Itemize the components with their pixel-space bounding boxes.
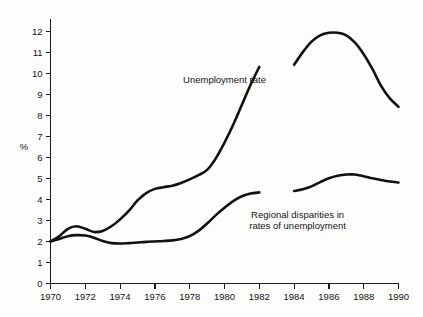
y-axis-tick-labels: 0123456789101112 xyxy=(32,26,43,289)
x-tick-label: 1972 xyxy=(75,291,96,302)
series-regional-disparities-segment-1 xyxy=(51,192,260,243)
series-unemployment-rate-segment-2 xyxy=(294,32,398,106)
y-tick-label: 3 xyxy=(37,215,42,226)
y-tick-label: 5 xyxy=(37,173,42,184)
axes-group xyxy=(51,19,399,284)
x-tick-label: 1978 xyxy=(179,291,200,302)
x-tick-label: 1984 xyxy=(284,291,305,302)
chart-container: 0123456789101112 19701972197419761978198… xyxy=(0,0,423,317)
series-unemployment-rate xyxy=(51,32,399,241)
y-tick-label: 4 xyxy=(37,194,42,205)
x-axis-tick-labels: 1970197219741976197819801982198419861988… xyxy=(40,291,409,302)
y-axis-ticks xyxy=(46,31,51,283)
y-tick-label: 8 xyxy=(37,110,42,121)
x-tick-label: 1980 xyxy=(214,291,235,302)
y-tick-label: 12 xyxy=(32,26,43,37)
series-unemployment-rate-segment-1 xyxy=(51,67,260,242)
y-tick-label: 10 xyxy=(32,68,43,79)
x-tick-label: 1990 xyxy=(388,291,409,302)
x-tick-label: 1982 xyxy=(249,291,270,302)
y-tick-label: 2 xyxy=(37,236,42,247)
x-axis-ticks xyxy=(51,284,399,289)
series-regional-disparities xyxy=(51,174,399,243)
series-lines xyxy=(51,32,399,243)
series-regional-disparities-segment-2 xyxy=(294,174,398,191)
y-tick-label: 0 xyxy=(37,278,42,289)
x-tick-label: 1974 xyxy=(110,291,131,302)
x-tick-label: 1988 xyxy=(353,291,374,302)
regional-disparities-label: Regional disparities inrates of unemploy… xyxy=(249,209,346,232)
y-tick-label: 6 xyxy=(37,152,42,163)
x-tick-label: 1976 xyxy=(144,291,165,302)
y-tick-label: 9 xyxy=(37,89,42,100)
y-tick-label: 7 xyxy=(37,131,42,142)
y-tick-label: 1 xyxy=(37,257,42,268)
chart-annotations: Unemployment rateRegional disparities in… xyxy=(183,74,346,232)
x-tick-label: 1986 xyxy=(318,291,339,302)
y-tick-label: 11 xyxy=(33,47,43,58)
x-tick-label: 1970 xyxy=(40,291,61,302)
unemployment-line-chart: 0123456789101112 19701972197419761978198… xyxy=(0,0,423,317)
y-axis-title: % xyxy=(20,141,29,152)
unemployment-rate-label: Unemployment rate xyxy=(183,74,266,85)
